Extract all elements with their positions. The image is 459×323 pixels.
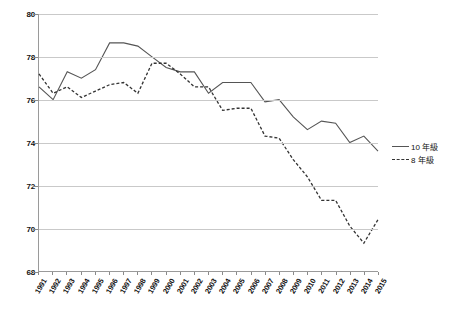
x-tick-mark (279, 272, 280, 275)
x-tick-label: 2003 (203, 277, 219, 295)
x-tick-mark (194, 272, 195, 275)
x-tick-label: 1991 (33, 277, 49, 295)
x-tick-mark (66, 272, 67, 275)
x-tick-label: 2012 (331, 277, 347, 295)
gridline (39, 57, 378, 58)
x-tick-label: 1994 (76, 277, 92, 295)
gridline (39, 14, 378, 15)
x-tick-label: 2000 (161, 277, 177, 295)
x-tick-mark (350, 272, 351, 275)
x-tick-mark (38, 272, 39, 275)
x-tick-mark (321, 272, 322, 275)
legend-item[interactable]: 10 年級 (392, 140, 438, 153)
x-tick-mark (81, 272, 82, 275)
y-tick-label: 74 (5, 139, 35, 148)
chart-legend: 10 年級8 年級 (392, 140, 438, 166)
x-tick-mark (265, 272, 266, 275)
x-tick-mark (378, 272, 379, 275)
x-tick-label: 2005 (231, 277, 247, 295)
x-tick-mark (151, 272, 152, 275)
x-tick-label: 2006 (246, 277, 262, 295)
x-tick-label: 2014 (359, 277, 375, 295)
x-tick-mark (293, 272, 294, 275)
series-line-grade-8 (39, 63, 378, 243)
plot-area (38, 14, 378, 272)
x-tick-mark (208, 272, 209, 275)
x-tick-label: 2010 (302, 277, 318, 295)
x-tick-label: 2009 (288, 277, 304, 295)
x-tick-label: 1996 (104, 277, 120, 295)
legend-label: 10 年級 (411, 141, 438, 152)
gridline (39, 229, 378, 230)
x-tick-label: 2015 (373, 277, 389, 295)
x-tick-mark (166, 272, 167, 275)
legend-item[interactable]: 8 年級 (392, 153, 438, 166)
x-tick-mark (180, 272, 181, 275)
x-tick-label: 2001 (175, 277, 191, 295)
x-tick-mark (52, 272, 53, 275)
x-tick-mark (109, 272, 110, 275)
y-tick-label: 76 (5, 96, 35, 105)
x-tick-label: 1993 (61, 277, 77, 295)
solid-line-icon (392, 143, 409, 150)
x-tick-mark (364, 272, 365, 275)
y-tick-label: 70 (5, 225, 35, 234)
x-tick-mark (123, 272, 124, 275)
x-tick-mark (336, 272, 337, 275)
x-tick-label: 2004 (217, 277, 233, 295)
x-tick-label: 2011 (317, 277, 333, 295)
line-chart: 68707274767880 1991199219931994199519961… (0, 0, 459, 323)
y-tick-label: 80 (5, 10, 35, 19)
x-tick-label: 2002 (189, 277, 205, 295)
legend-label: 8 年級 (411, 154, 434, 165)
x-tick-label: 1997 (118, 277, 134, 295)
series-line-grade-10 (39, 43, 378, 151)
x-tick-label: 1995 (90, 277, 106, 295)
dashed-line-icon (392, 156, 409, 163)
x-tick-mark (251, 272, 252, 275)
x-tick-mark (236, 272, 237, 275)
x-tick-label: 1992 (47, 277, 63, 295)
x-tick-label: 1999 (146, 277, 162, 295)
x-tick-label: 2008 (274, 277, 290, 295)
x-tick-mark (137, 272, 138, 275)
y-tick-label: 78 (5, 53, 35, 62)
x-tick-mark (95, 272, 96, 275)
y-tick-label: 72 (5, 182, 35, 191)
gridline (39, 186, 378, 187)
y-tick-label: 68 (5, 268, 35, 277)
x-tick-mark (222, 272, 223, 275)
x-tick-label: 1998 (132, 277, 148, 295)
gridline (39, 143, 378, 144)
x-tick-label: 2007 (260, 277, 276, 295)
x-tick-label: 2013 (345, 277, 361, 295)
x-tick-mark (307, 272, 308, 275)
gridline (39, 100, 378, 101)
